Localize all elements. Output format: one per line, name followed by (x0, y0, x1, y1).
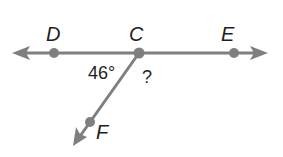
point-f (85, 117, 95, 127)
label-e: E (221, 23, 235, 45)
label-f: F (96, 121, 110, 143)
angle-diagram: D C E F 46° ? (0, 0, 283, 157)
point-d (49, 48, 59, 58)
angle-dcf-label: 46° (88, 63, 115, 83)
label-c: C (129, 23, 144, 45)
point-c (134, 48, 145, 59)
label-d: D (46, 23, 60, 45)
point-e (229, 48, 239, 58)
angle-fce-label: ? (142, 67, 152, 87)
